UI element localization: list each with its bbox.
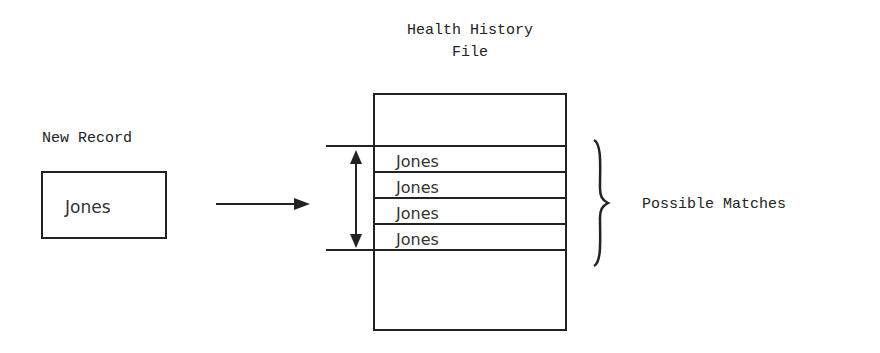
match-range-top-line: [326, 145, 567, 147]
file-record: Jones: [396, 152, 439, 171]
range-double-arrow-icon: [346, 150, 366, 248]
arrow-right-icon: [216, 196, 312, 212]
record-divider: [374, 171, 567, 173]
file-record: Jones: [396, 178, 439, 197]
possible-matches-label: Possible Matches: [642, 196, 786, 213]
new-record-label: New Record: [42, 130, 132, 147]
new-record-name: Jones: [65, 197, 111, 217]
file-title: Health History File: [360, 20, 580, 64]
record-divider: [374, 197, 567, 199]
curly-brace-icon: [590, 138, 612, 268]
file-title-line1: Health History: [360, 20, 580, 42]
file-record: Jones: [396, 230, 439, 249]
match-range-bottom-line: [326, 249, 567, 251]
record-divider: [374, 223, 567, 225]
file-title-line2: File: [360, 42, 580, 64]
file-record: Jones: [396, 204, 439, 223]
